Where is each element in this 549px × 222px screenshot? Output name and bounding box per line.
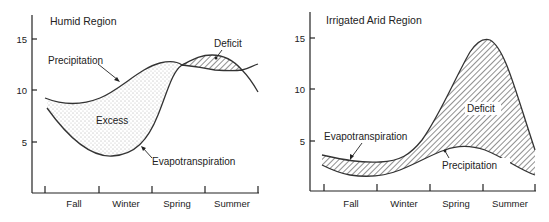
excess-label: Excess bbox=[96, 115, 128, 126]
x-label-winter: Winter bbox=[112, 198, 139, 209]
deficit-label: Deficit bbox=[467, 103, 495, 114]
humid-region-chart: 15 10 5 Fall Winter Spring Summer Humid … bbox=[16, 15, 259, 209]
x-label-winter: Winter bbox=[390, 198, 417, 209]
y-label-5: 5 bbox=[300, 136, 305, 147]
x-label-spring: Spring bbox=[163, 198, 190, 209]
excess-area bbox=[47, 62, 182, 157]
irrigated-arid-region-chart: 15 10 5 Fall Winter Spring Summer Irriga… bbox=[294, 12, 536, 209]
x-label-fall: Fall bbox=[66, 198, 81, 209]
chart-title: Irrigated Arid Region bbox=[326, 14, 422, 26]
arrow-icon bbox=[98, 64, 118, 80]
y-label-10: 10 bbox=[16, 85, 27, 96]
y-label-5: 5 bbox=[22, 137, 27, 148]
evapotranspiration-label: Evapotranspiration bbox=[152, 156, 235, 167]
arrowhead-icon bbox=[444, 150, 447, 153]
x-label-summer: Summer bbox=[492, 198, 528, 209]
arrowhead-icon bbox=[215, 57, 218, 60]
precipitation-label: Precipitation bbox=[442, 160, 497, 171]
y-label-15: 15 bbox=[294, 33, 305, 44]
chart-title: Humid Region bbox=[50, 15, 117, 27]
y-label-10: 10 bbox=[294, 84, 305, 95]
x-label-summer: Summer bbox=[214, 198, 250, 209]
deficit-area bbox=[322, 39, 535, 176]
x-label-spring: Spring bbox=[442, 198, 469, 209]
evapotranspiration-label: Evapotranspiration bbox=[324, 131, 407, 142]
y-label-15: 15 bbox=[16, 34, 27, 45]
deficit-area bbox=[182, 55, 242, 71]
precipitation-label: Precipitation bbox=[48, 55, 103, 66]
figure: 15 10 5 Fall Winter Spring Summer Humid … bbox=[0, 0, 549, 222]
x-label-fall: Fall bbox=[343, 198, 358, 209]
deficit-label: Deficit bbox=[214, 38, 242, 49]
